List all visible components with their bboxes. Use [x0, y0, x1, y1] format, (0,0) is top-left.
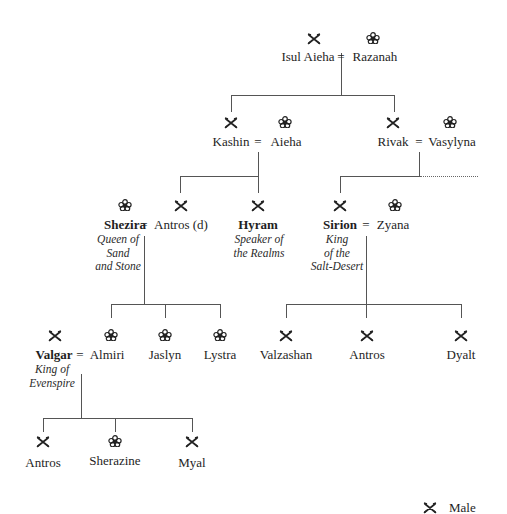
person-name: Aieha	[270, 134, 301, 149]
marriage-sign: =	[415, 134, 422, 149]
person-name: Dyalt	[447, 347, 476, 362]
male-symbol-icon	[224, 117, 238, 129]
connector-line-dotted	[420, 176, 478, 177]
connector-line	[220, 304, 221, 318]
person-name: Vasylyna	[428, 134, 476, 149]
person-name: Almiri	[90, 347, 125, 362]
person-title: King of Evenspire	[29, 363, 75, 390]
person-name: Zyana	[377, 217, 409, 232]
connector-line	[81, 374, 82, 419]
male-symbol-icon	[251, 200, 265, 212]
connector-line	[43, 418, 44, 432]
person-name: Sirion	[323, 217, 357, 232]
connector-line	[231, 95, 232, 112]
person-title: King of the Salt-Desert	[311, 233, 363, 274]
female-symbol-icon	[158, 329, 172, 341]
marriage-sign: =	[140, 217, 147, 232]
male-symbol-icon	[174, 200, 188, 212]
person-name: Antros	[25, 455, 60, 470]
male-symbol-icon	[48, 330, 62, 342]
marriage-sign: =	[76, 347, 83, 362]
male-symbol-icon	[454, 330, 468, 342]
person-name: Myal	[178, 455, 205, 470]
male-symbol-icon	[386, 117, 400, 129]
person-name: Razanah	[353, 49, 398, 64]
connector-line	[144, 236, 145, 304]
connector-line	[286, 304, 462, 305]
female-symbol-icon	[366, 32, 380, 44]
person-name: Lystra	[204, 347, 237, 362]
female-symbol-icon	[388, 199, 402, 211]
connector-line	[419, 152, 420, 176]
connector-line	[111, 304, 112, 318]
connector-line	[394, 95, 395, 112]
male-symbol-icon	[36, 436, 50, 448]
female-symbol-icon	[108, 435, 122, 447]
connector-line	[340, 176, 420, 177]
marriage-sign: =	[254, 134, 261, 149]
person-name: Valzashan	[260, 347, 313, 362]
male-symbol-icon	[307, 33, 321, 45]
connector-line	[165, 304, 166, 318]
person-name: Antros (d)	[154, 217, 208, 232]
female-symbol-icon	[213, 329, 227, 341]
person-name: Valgar	[35, 347, 72, 362]
person-title: Speaker of the Realms	[234, 233, 285, 260]
female-symbol-icon	[118, 199, 132, 211]
person-name: Rivak	[377, 134, 408, 149]
female-symbol-icon	[104, 329, 118, 341]
male-symbol-icon	[360, 330, 374, 342]
person-name: Jaslyn	[149, 347, 182, 362]
female-symbol-icon	[443, 116, 457, 128]
person-name: Sherazine	[89, 453, 140, 468]
connector-line	[258, 152, 259, 176]
connector-line	[366, 236, 367, 318]
connector-line	[115, 418, 116, 432]
connector-line	[258, 176, 259, 193]
male-symbol-icon	[279, 330, 293, 342]
connector-line	[180, 176, 181, 193]
legend-male-icon	[423, 502, 437, 514]
connector-line	[340, 176, 341, 193]
marriage-sign: =	[362, 217, 369, 232]
person-name: Kashin	[213, 134, 250, 149]
connector-line	[231, 95, 395, 96]
connector-line	[461, 304, 462, 318]
connector-line	[43, 418, 193, 419]
connector-line	[286, 304, 287, 318]
person-name: Antros	[349, 347, 384, 362]
legend-male-label: Male	[449, 500, 476, 514]
person-title: Queen of Sand and Stone	[95, 233, 141, 274]
connector-line	[192, 418, 193, 432]
connector-line	[111, 304, 221, 305]
person-name: Isul Aieha	[281, 49, 334, 64]
female-symbol-icon	[278, 116, 292, 128]
marriage-sign: =	[337, 49, 344, 64]
male-symbol-icon	[185, 436, 199, 448]
connector-line	[180, 176, 259, 177]
male-symbol-icon	[333, 200, 347, 212]
person-name: Hyram	[238, 217, 278, 232]
